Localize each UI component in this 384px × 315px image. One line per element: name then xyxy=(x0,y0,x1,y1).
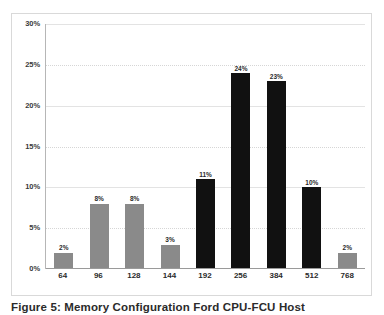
bar-slot: 23% xyxy=(259,24,294,269)
bar-value-label: 23% xyxy=(270,74,283,81)
x-axis-tick-label: 768 xyxy=(330,272,366,280)
y-axis-tick-label: 25% xyxy=(12,61,40,69)
x-axis-tick-label: 384 xyxy=(258,272,294,280)
x-axis-tick-label: 144 xyxy=(152,272,188,280)
bar-value-label: 3% xyxy=(165,237,174,244)
x-axis: 6496128144192256384512768 xyxy=(45,272,365,288)
x-axis-tick-label: 64 xyxy=(45,272,81,280)
bar-slot: 10% xyxy=(294,24,329,269)
bar-series: 2%8%8%3%11%24%23%10%2% xyxy=(46,24,365,269)
bar-slot: 2% xyxy=(46,24,81,269)
bar[interactable]: 3% xyxy=(161,245,180,270)
bar[interactable]: 2% xyxy=(54,253,73,269)
y-axis-tick-label: 20% xyxy=(12,102,40,110)
bar-slot: 8% xyxy=(117,24,152,269)
figure-container: 30%25%20%15%10%5%0% 2%8%8%3%11%24%23%10%… xyxy=(0,0,384,315)
figure-caption: Figure 5: Memory Configuration Ford CPU-… xyxy=(11,301,376,314)
y-axis-tick-label: 0% xyxy=(12,265,40,273)
y-axis-tick-label: 10% xyxy=(12,184,40,192)
x-axis-tick-label: 192 xyxy=(187,272,223,280)
x-axis-baseline xyxy=(46,268,365,269)
y-axis-tick-label: 5% xyxy=(12,224,40,232)
bar-value-label: 2% xyxy=(59,245,68,252)
bar-value-label: 8% xyxy=(130,196,139,203)
bar[interactable]: 11% xyxy=(196,179,215,269)
plot-area: 2%8%8%3%11%24%23%10%2% xyxy=(45,24,365,269)
chart-frame: 30%25%20%15%10%5%0% 2%8%8%3%11%24%23%10%… xyxy=(11,13,372,296)
x-axis-tick-label: 96 xyxy=(81,272,117,280)
bar-value-label: 8% xyxy=(94,196,103,203)
bar-value-label: 24% xyxy=(234,66,247,73)
bar-slot: 2% xyxy=(330,24,365,269)
bar[interactable]: 8% xyxy=(90,204,109,269)
x-axis-tick-label: 512 xyxy=(294,272,330,280)
x-axis-tick-label: 256 xyxy=(223,272,259,280)
bar-slot: 3% xyxy=(152,24,187,269)
x-axis-tick-label: 128 xyxy=(116,272,152,280)
bar-value-label: 10% xyxy=(305,180,318,187)
y-axis: 30%25%20%15%10%5%0% xyxy=(12,14,42,295)
y-axis-tick-label: 15% xyxy=(12,143,40,151)
bar[interactable]: 24% xyxy=(231,73,250,269)
bar[interactable]: 23% xyxy=(267,81,286,269)
bar[interactable]: 8% xyxy=(125,204,144,269)
bar-value-label: 2% xyxy=(343,245,352,252)
y-axis-tick-label: 30% xyxy=(12,20,40,28)
bar[interactable]: 10% xyxy=(302,187,321,269)
bar-value-label: 11% xyxy=(199,172,212,179)
bar-slot: 8% xyxy=(81,24,116,269)
bar-slot: 11% xyxy=(188,24,223,269)
bar[interactable]: 2% xyxy=(338,253,357,269)
bar-slot: 24% xyxy=(223,24,258,269)
